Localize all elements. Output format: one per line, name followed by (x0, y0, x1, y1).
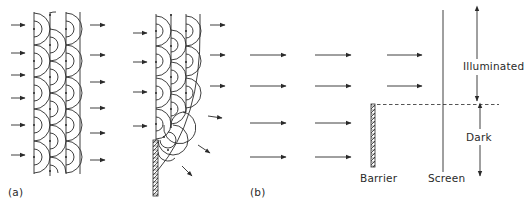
screen-label: Screen (428, 172, 465, 184)
wavelets-row-1 (34, 13, 50, 173)
transmitted-arrows (90, 25, 105, 160)
ray-arrows (250, 55, 422, 157)
panel-a-barrier-edge (133, 14, 225, 196)
diffracted-arrows (182, 25, 225, 176)
wavefront-lines (34, 12, 80, 176)
panel-b-geometric-shadow (250, 10, 499, 176)
illuminated-label: Illuminated (463, 60, 524, 72)
barrier (371, 104, 375, 167)
incident-arrows (11, 25, 25, 155)
barrier-edge (153, 140, 158, 196)
panel-a-label: (a) (8, 186, 23, 198)
barrier-label: Barrier (360, 172, 397, 184)
wavelets-row-2 (50, 12, 66, 173)
incident-arrows (133, 33, 147, 126)
panel-b-label: (b) (250, 186, 265, 198)
dark-label: Dark (466, 131, 492, 143)
panel-a-unobstructed (11, 12, 105, 176)
